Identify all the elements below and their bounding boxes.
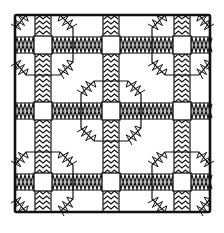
cornerstone-square-2-1 bbox=[173, 102, 191, 120]
sashing-horizontal-0-2 bbox=[119, 38, 174, 52]
sashing-vertical-2-0 bbox=[175, 16, 189, 34]
cornerstone-square-0-2 bbox=[34, 173, 52, 191]
cornerstone-square-1-0 bbox=[102, 36, 120, 54]
quilt-block-illustration bbox=[0, 0, 224, 233]
sashing-vertical-1-1 bbox=[104, 54, 118, 102]
cornerstone-square-2-2 bbox=[173, 173, 191, 191]
sashing-vertical-0-1 bbox=[36, 54, 50, 102]
sashing-vertical-1-0 bbox=[104, 16, 118, 34]
sashing-vertical-0-3 bbox=[36, 191, 50, 209]
cornerstone-square-2-0 bbox=[173, 36, 191, 54]
sashing-vertical-2-1 bbox=[175, 54, 189, 102]
sashing-horizontal-1-2 bbox=[119, 104, 174, 118]
cornerstone-square-0-0 bbox=[34, 36, 52, 54]
sashing-vertical-1-3 bbox=[104, 191, 118, 209]
cornerstone-square-1-2 bbox=[102, 173, 120, 191]
sashing-horizontal-2-2 bbox=[119, 175, 174, 189]
sashing-vertical-0-2 bbox=[36, 120, 50, 173]
sashing-vertical-1-2 bbox=[104, 120, 118, 173]
cornerstone-square-0-1 bbox=[34, 102, 52, 120]
sashing-vertical-2-3 bbox=[175, 191, 189, 209]
sashing-vertical-2-2 bbox=[175, 120, 189, 173]
cornerstone-square-1-1 bbox=[102, 102, 120, 120]
sashing-vertical-0-0 bbox=[36, 16, 50, 34]
